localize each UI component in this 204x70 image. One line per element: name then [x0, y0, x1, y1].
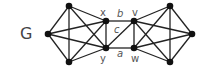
edge-R1-v [134, 6, 170, 21]
node-y [103, 45, 110, 52]
node-R1 [167, 3, 174, 10]
node-label-w: w [131, 53, 139, 64]
node-label-y: y [100, 53, 106, 64]
node-x [103, 18, 110, 25]
node-v [131, 18, 138, 25]
node-L1 [66, 3, 73, 10]
graph-g-diagram: G xyvwbca [0, 0, 204, 70]
node-L2 [45, 31, 52, 38]
node-w [131, 45, 138, 52]
edge-label-b: b [117, 8, 123, 19]
graph-name-label: G [20, 24, 32, 43]
edge-label-a: a [117, 48, 123, 59]
node-label-v: v [132, 7, 138, 18]
node-L3 [66, 59, 73, 66]
node-R2 [189, 31, 196, 38]
node-R3 [167, 59, 174, 66]
node-label-x: x [100, 7, 106, 18]
edge-label-c: c [114, 24, 120, 35]
edge-y-v [106, 21, 134, 48]
